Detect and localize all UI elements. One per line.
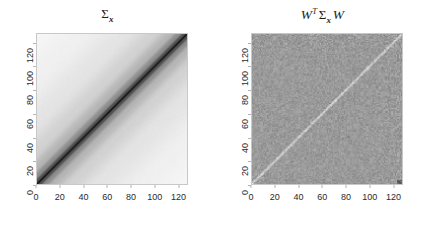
y-tick-mark [248, 138, 251, 139]
x-tick-label: 40 [293, 192, 303, 202]
y-tick-mark [33, 138, 36, 139]
x-tick-label: 120 [386, 192, 401, 202]
x-tick-label: 0 [33, 192, 38, 202]
y-tick-mark [33, 90, 36, 91]
x-tick-label: 60 [317, 192, 327, 202]
wt-sigma-x-w-plot-frame [251, 33, 403, 185]
y-tick-label: 120 [25, 48, 35, 63]
x-tick-label: 120 [171, 192, 186, 202]
x-tick-label: 80 [341, 192, 351, 202]
y-tick-mark [33, 43, 36, 44]
sigma-x-y-axis: 020406080100120 [4, 33, 36, 185]
y-tick-mark [248, 66, 251, 67]
y-tick-mark [248, 161, 251, 162]
x-tick-mark [369, 185, 370, 188]
x-tick-mark [393, 185, 394, 188]
script-w-left-glyph: W [301, 7, 313, 22]
y-tick-mark [248, 43, 251, 44]
y-tick-label: 60 [240, 119, 250, 129]
x-tick-mark [36, 185, 37, 188]
x-tick-label: 0 [248, 192, 253, 202]
x-tick-mark [154, 185, 155, 188]
x-tick-mark [346, 185, 347, 188]
y-tick-mark [33, 66, 36, 67]
panel-sigma-x: Σx 020406080100120 020406080100120 [0, 0, 215, 225]
sigma-glyph: Σ [101, 6, 109, 21]
x-tick-label: 100 [362, 192, 377, 202]
wt-sigma-x-w-x-axis: 020406080100120 [251, 185, 403, 215]
y-tick-label: 80 [25, 95, 35, 105]
x-tick-mark [131, 185, 132, 188]
y-tick-mark [248, 114, 251, 115]
y-tick-label: 60 [25, 119, 35, 129]
figure-container: Σx 020406080100120 020406080100120 WT Σx… [0, 0, 431, 225]
x-tick-label: 20 [55, 192, 65, 202]
script-w-right-glyph: W [333, 7, 345, 22]
wt-sigma-x-w-y-axis: 020406080100120 [219, 33, 251, 185]
x-tick-mark [178, 185, 179, 188]
y-tick-label: 120 [240, 48, 250, 63]
x-tick-label: 100 [147, 192, 162, 202]
sigma-x-heatmap [37, 34, 187, 184]
x-tick-mark [83, 185, 84, 188]
y-tick-mark [248, 90, 251, 91]
x-tick-mark [59, 185, 60, 188]
subscript-x-glyph: x [109, 14, 114, 24]
x-tick-label: 60 [102, 192, 112, 202]
x-tick-mark [274, 185, 275, 188]
sigma-glyph-right: Σ [319, 7, 327, 22]
y-tick-mark [33, 161, 36, 162]
y-tick-label: 40 [240, 143, 250, 153]
y-tick-label: 100 [25, 71, 35, 86]
x-tick-label: 40 [78, 192, 88, 202]
sigma-x-plot-frame [36, 33, 188, 185]
y-tick-label: 100 [240, 71, 250, 86]
panel-wt-sigma-x-w: WT Σx W 020406080100120 020406080100120 [215, 0, 430, 225]
panel-sigma-x-title: Σx [0, 6, 215, 24]
sigma-x-x-axis: 020406080100120 [36, 185, 188, 215]
transpose-glyph: T [312, 6, 317, 16]
subscript-x-glyph-right: x [327, 15, 332, 25]
x-tick-mark [251, 185, 252, 188]
wt-sigma-x-w-heatmap [252, 34, 402, 184]
y-tick-label: 20 [240, 166, 250, 176]
y-tick-label: 20 [25, 166, 35, 176]
x-tick-mark [298, 185, 299, 188]
x-tick-mark [107, 185, 108, 188]
panel-wt-sigma-x-w-title: WT Σx W [215, 6, 430, 25]
x-tick-mark [322, 185, 323, 188]
y-tick-mark [33, 114, 36, 115]
x-tick-label: 80 [126, 192, 136, 202]
y-tick-label: 80 [240, 95, 250, 105]
x-tick-label: 20 [270, 192, 280, 202]
y-tick-label: 40 [25, 143, 35, 153]
